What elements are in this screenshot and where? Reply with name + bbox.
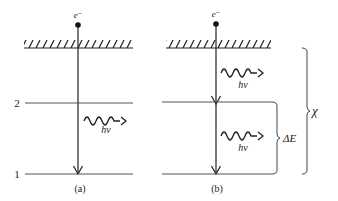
surface-hatch-b (166, 40, 271, 48)
photon-label-a: hν (101, 124, 111, 135)
panel-b: e⁻ hν hν (b) (162, 9, 272, 195)
photon-wave-icon-b-lower (221, 132, 263, 140)
level-2-label: 2 (14, 97, 20, 109)
panel-label-a: (a) (74, 183, 85, 195)
chi-brace (302, 48, 310, 174)
delta-e-brace (272, 102, 280, 174)
chi-label: χ (310, 103, 318, 118)
panel-label-b: (b) (211, 183, 223, 195)
photon-label-b-upper: hν (238, 79, 248, 90)
energy-level-diagram: e⁻ hν (a) 2 1 e⁻ (0, 0, 338, 201)
electron-label-a: e⁻ (74, 10, 83, 20)
photon-label-b-lower: hν (238, 142, 248, 153)
panel-a: e⁻ hν (a) (24, 10, 133, 195)
level-1-label: 1 (14, 168, 20, 180)
electron-label-b: e⁻ (212, 9, 221, 19)
photon-wave-icon-b-upper (221, 69, 263, 77)
delta-e-label: ΔE (282, 132, 296, 144)
